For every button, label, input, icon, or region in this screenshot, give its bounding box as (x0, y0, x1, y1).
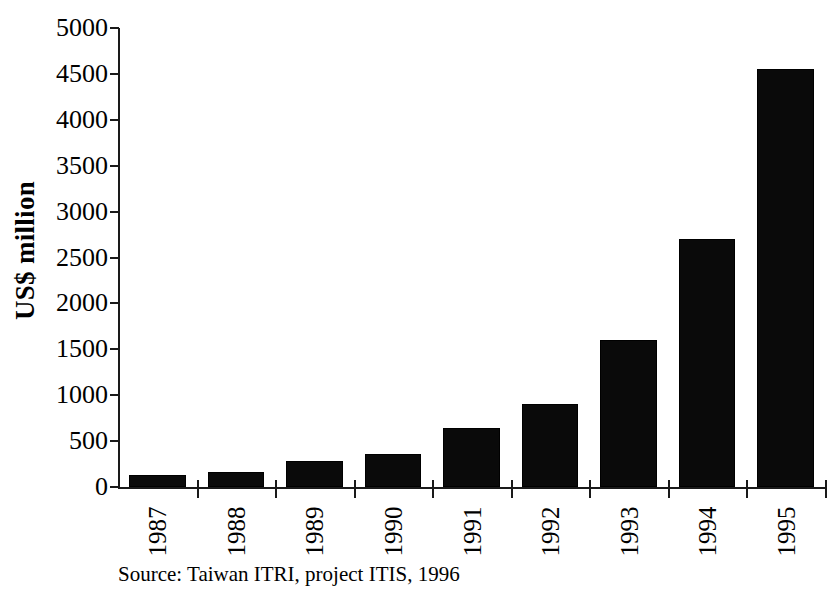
y-tick-label: 4500 (56, 61, 108, 87)
bar (208, 472, 265, 487)
y-tick-label: 4000 (56, 107, 108, 133)
y-tick-label: 500 (69, 428, 108, 454)
x-axis-line (118, 487, 827, 489)
x-tick-label-text: 1990 (380, 507, 405, 557)
x-tick-mark (197, 480, 199, 498)
y-tick-mark (110, 486, 119, 488)
bar (443, 428, 500, 487)
x-tick-mark (589, 480, 591, 498)
x-tick-label: 1992 (519, 497, 581, 559)
y-tick-label: 5000 (56, 15, 108, 41)
y-tick-mark (110, 348, 119, 350)
y-tick-mark (110, 211, 119, 213)
y-tick-mark (110, 440, 119, 442)
x-tick-mark (432, 480, 434, 498)
x-tick-mark (746, 480, 748, 498)
y-tick-mark (110, 302, 119, 304)
x-tick-label-text: 1988 (223, 507, 248, 557)
y-tick-label: 3500 (56, 153, 108, 179)
x-tick-mark (668, 480, 670, 498)
x-tick-label-text: 1993 (616, 507, 641, 557)
x-tick-mark (354, 480, 356, 498)
bar (286, 461, 343, 487)
x-tick-label: 1991 (441, 497, 503, 559)
y-tick-mark (110, 27, 119, 29)
bar (522, 404, 579, 487)
x-tick-label-text: 1995 (773, 507, 798, 557)
x-tick-label-text: 1994 (695, 507, 720, 557)
x-axis-tick-labels: 198719881989199019911992199319941995 (118, 497, 825, 559)
bar (679, 239, 736, 487)
x-tick-label-text: 1987 (145, 507, 170, 557)
y-tick-mark (110, 394, 119, 396)
x-tick-mark (825, 480, 827, 498)
y-tick-mark (110, 119, 119, 121)
plot-area (118, 28, 825, 487)
x-tick-label: 1993 (598, 497, 660, 559)
x-tick-label-text: 1992 (538, 507, 563, 557)
x-tick-label: 1988 (205, 497, 267, 559)
bar (600, 340, 657, 487)
x-tick-label: 1987 (126, 497, 188, 559)
bar (757, 69, 814, 487)
y-tick-mark (110, 73, 119, 75)
x-tick-label-text: 1989 (302, 507, 327, 557)
x-tick-label: 1989 (283, 497, 345, 559)
y-tick-label: 2000 (56, 290, 108, 316)
bar (365, 454, 422, 487)
y-tick-label: 1000 (56, 382, 108, 408)
x-tick-mark (511, 480, 513, 498)
x-tick-label: 1994 (676, 497, 738, 559)
y-axis-title: US$ million (0, 0, 52, 500)
bar-chart-figure: US$ million 0500100015002000250030003500… (0, 0, 839, 592)
y-tick-label: 0 (95, 474, 108, 500)
x-tick-label: 1995 (755, 497, 817, 559)
y-tick-mark (110, 257, 119, 259)
x-tick-label: 1990 (362, 497, 424, 559)
bar (129, 475, 186, 487)
y-tick-label: 1500 (56, 336, 108, 362)
source-note: Source: Taiwan ITRI, project ITIS, 1996 (118, 562, 460, 587)
x-tick-mark (275, 480, 277, 498)
y-tick-label: 2500 (56, 245, 108, 271)
y-axis-title-text: US$ million (11, 180, 42, 319)
y-axis-tick-labels: 0500100015002000250030003500400045005000 (52, 28, 114, 487)
x-tick-label-text: 1991 (459, 507, 484, 557)
y-tick-label: 3000 (56, 199, 108, 225)
y-tick-mark (110, 165, 119, 167)
